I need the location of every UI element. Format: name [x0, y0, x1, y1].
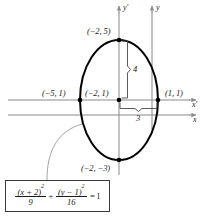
y-prime-axis-label: y′: [123, 4, 128, 12]
label-top-vertex: (−2, 5): [87, 27, 110, 36]
equation-term-2: (y − 1)2 16: [56, 186, 87, 207]
equation-equals-sign: =: [90, 192, 95, 201]
label-semi-major: 4: [133, 65, 137, 74]
equation-term-2-base: (y − 1): [58, 186, 82, 196]
label-bottom-vertex: (−2, −3): [81, 164, 110, 173]
equation-term-2-denominator: 16: [67, 197, 76, 206]
label-right-vertex: (1, 1): [165, 89, 183, 98]
label-semi-minor: 3: [136, 114, 140, 123]
equation-plus-sign: +: [49, 192, 54, 201]
equation-term-1-numerator: (x + 2)2: [15, 186, 46, 198]
point-left-vertex: [78, 98, 83, 103]
equation-callout-box: (x + 2)2 9 + (y − 1)2 16 = 1: [5, 180, 110, 212]
equation-term-2-numerator: (y − 1)2: [56, 186, 87, 198]
semi-minor-brace: [120, 103, 157, 112]
equation-term-1-base: (x + 2): [17, 186, 41, 196]
point-bottom-vertex: [117, 158, 122, 163]
equation-term-1: (x + 2)2 9: [15, 186, 46, 207]
ellipse-equation: (x + 2)2 9 + (y − 1)2 16 = 1: [14, 186, 100, 207]
x-prime-axis-label: x′: [192, 101, 197, 109]
callout-leader-line: [47, 124, 82, 180]
y-axis-label: y: [156, 4, 159, 12]
equation-term-2-exponent: 2: [82, 183, 85, 189]
equation-term-1-denominator: 9: [29, 197, 33, 206]
x-axis-label: x: [193, 116, 196, 124]
ellipse-figure: y′ y x′ x (−2, 5) (−5, 1) (−2, 1) (1, 1)…: [0, 0, 207, 218]
point-top-vertex: [117, 38, 122, 43]
semi-major-brace: [122, 41, 131, 98]
label-left-vertex: (−5, 1): [42, 89, 65, 98]
label-center: (−2, 1): [85, 89, 108, 98]
point-center: [117, 98, 122, 103]
equation-term-1-exponent: 2: [41, 183, 44, 189]
equation-right-hand-side: 1: [96, 192, 100, 201]
point-right-vertex: [156, 98, 161, 103]
